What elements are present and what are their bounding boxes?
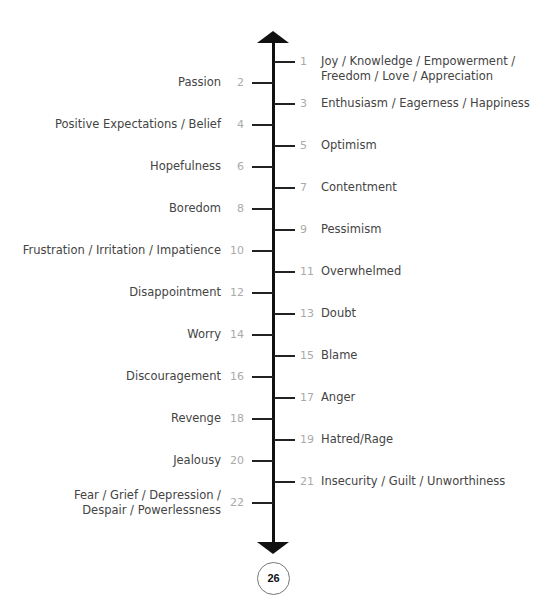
scale-number: 3 — [300, 97, 307, 111]
scale-number: 12 — [230, 286, 244, 300]
scale-number: 5 — [300, 139, 307, 153]
tick-mark — [252, 166, 273, 168]
tick-mark — [252, 208, 273, 210]
emotion-label: Discouragement — [126, 369, 221, 384]
scale-number: 13 — [300, 307, 314, 321]
scale-number: 8 — [237, 202, 244, 216]
emotion-label: Insecurity / Guilt / Unworthiness — [321, 474, 505, 489]
tick-mark — [274, 271, 295, 273]
emotion-label: Overwhelmed — [321, 264, 401, 279]
tick-mark — [274, 187, 295, 189]
emotion-label: Boredom — [169, 201, 221, 216]
page-number: 26 — [257, 562, 290, 595]
tick-mark — [274, 61, 295, 63]
tick-mark — [274, 145, 295, 147]
emotion-label: Positive Expectations / Belief — [55, 117, 221, 132]
tick-mark — [252, 250, 273, 252]
emotion-label: Revenge — [171, 411, 221, 426]
scale-number: 16 — [230, 370, 244, 384]
scale-number: 1 — [300, 55, 307, 69]
emotion-label: Enthusiasm / Eagerness / Happiness — [321, 96, 530, 111]
tick-mark — [252, 292, 273, 294]
tick-mark — [274, 397, 295, 399]
scale-number: 6 — [237, 160, 244, 174]
scale-number: 20 — [230, 454, 244, 468]
scale-number: 11 — [300, 265, 314, 279]
emotion-label: Joy / Knowledge / Empowerment / Freedom … — [321, 54, 515, 84]
scale-number: 9 — [300, 223, 307, 237]
tick-mark — [274, 481, 295, 483]
scale-number: 21 — [300, 475, 314, 489]
tick-mark — [274, 103, 295, 105]
tick-mark — [274, 355, 295, 357]
tick-mark — [252, 376, 273, 378]
emotion-label: Fear / Grief / Depression / Despair / Po… — [74, 488, 221, 518]
emotion-label: Blame — [321, 348, 357, 363]
emotion-label: Worry — [187, 327, 221, 342]
tick-mark — [252, 418, 273, 420]
emotion-label: Passion — [178, 75, 221, 90]
emotion-label: Doubt — [321, 306, 356, 321]
scale-number: 7 — [300, 181, 307, 195]
emotion-label: Frustration / Irritation / Impatience — [23, 243, 221, 258]
arrow-down-icon — [257, 542, 289, 554]
emotion-label: Hopefulness — [150, 159, 221, 174]
tick-mark — [252, 82, 273, 84]
emotion-label: Optimism — [321, 138, 377, 153]
tick-mark — [274, 313, 295, 315]
scale-number: 17 — [300, 391, 314, 405]
scale-number: 18 — [230, 412, 244, 426]
tick-mark — [252, 502, 273, 504]
scale-number: 10 — [230, 244, 244, 258]
emotion-label: Jealousy — [173, 453, 221, 468]
emotion-label: Pessimism — [321, 222, 381, 237]
tick-mark — [252, 124, 273, 126]
emotion-label: Hatred/Rage — [321, 432, 393, 447]
emotion-label: Anger — [321, 390, 355, 405]
emotion-label: Disappointment — [129, 285, 221, 300]
tick-mark — [252, 334, 273, 336]
scale-number: 4 — [237, 118, 244, 132]
emotion-label: Contentment — [321, 180, 397, 195]
tick-mark — [274, 229, 295, 231]
scale-number: 14 — [230, 328, 244, 342]
scale-number: 19 — [300, 433, 314, 447]
tick-mark — [274, 439, 295, 441]
tick-mark — [252, 460, 273, 462]
scale-number: 22 — [230, 496, 244, 510]
scale-number: 2 — [237, 76, 244, 90]
scale-number: 15 — [300, 349, 314, 363]
